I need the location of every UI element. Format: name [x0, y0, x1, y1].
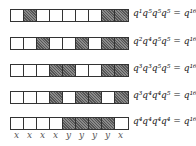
hatched-cell — [63, 118, 76, 129]
empty-cell — [50, 10, 63, 21]
empty-cell — [11, 38, 24, 49]
strip-row-3 — [10, 63, 129, 77]
strip-row-4 — [10, 90, 129, 104]
hatched-cell — [89, 92, 102, 103]
strip-4 — [10, 91, 129, 104]
empty-cell — [89, 65, 102, 76]
hatched-cell — [102, 38, 115, 49]
hatched-cell — [76, 92, 89, 103]
variable-label: y — [88, 130, 101, 140]
empty-cell — [50, 118, 63, 129]
empty-cell — [24, 65, 37, 76]
hatched-cell — [102, 118, 115, 129]
variable-label: x — [10, 130, 23, 140]
hatched-cell — [102, 65, 115, 76]
empty-cell — [24, 118, 37, 129]
hatched-cell — [50, 65, 63, 76]
empty-cell — [24, 92, 37, 103]
hatched-cell — [63, 65, 76, 76]
variable-label: y — [75, 130, 88, 140]
variable-label: y — [101, 130, 114, 140]
variable-label: x — [23, 130, 36, 140]
empty-cell — [63, 38, 76, 49]
empty-cell — [24, 38, 37, 49]
hatched-cell — [37, 38, 50, 49]
empty-cell — [102, 92, 115, 103]
empty-cell — [115, 118, 128, 129]
row-label-3: q³q³q⁵q⁵ = q¹⁶ — [133, 63, 196, 73]
hatched-cell — [76, 38, 89, 49]
strip-row-1 — [10, 8, 129, 22]
hatched-cell — [76, 118, 89, 129]
empty-cell — [11, 10, 24, 21]
empty-cell — [63, 92, 76, 103]
strip-row-2 — [10, 36, 129, 50]
variable-labels: xxxxyyyyx — [10, 130, 127, 140]
hatched-cell — [24, 10, 37, 21]
empty-cell — [50, 38, 63, 49]
hatched-cell — [115, 65, 128, 76]
empty-cell — [89, 10, 102, 21]
strip-row-5 — [10, 116, 129, 130]
hatched-cell — [89, 118, 102, 129]
variable-label: x — [114, 130, 127, 140]
empty-cell — [37, 65, 50, 76]
empty-cell — [11, 118, 24, 129]
empty-cell — [89, 38, 102, 49]
empty-cell — [37, 10, 50, 21]
empty-cell — [37, 118, 50, 129]
empty-cell — [11, 65, 24, 76]
empty-cell — [76, 65, 89, 76]
hatched-cell — [115, 10, 128, 21]
variable-label: y — [62, 130, 75, 140]
row-label-5: q⁴q⁴q⁴q⁴ = q¹⁶ — [133, 116, 196, 126]
strip-2 — [10, 37, 129, 50]
strip-5 — [10, 117, 129, 130]
hatched-cell — [115, 92, 128, 103]
empty-cell — [63, 10, 76, 21]
empty-cell — [76, 10, 89, 21]
hatched-cell — [50, 92, 63, 103]
strip-3 — [10, 64, 129, 77]
hatched-cell — [102, 10, 115, 21]
row-label-1: q¹q⁵q⁵q⁵ = q¹⁶ — [133, 8, 196, 18]
row-label-4: q³q⁴q⁴q⁵ = q¹⁶ — [133, 90, 196, 100]
variable-label: x — [36, 130, 49, 140]
strip-1 — [10, 9, 129, 22]
empty-cell — [37, 92, 50, 103]
variable-label: x — [49, 130, 62, 140]
empty-cell — [11, 92, 24, 103]
row-label-2: q²q⁴q⁵q⁵ = q¹⁶ — [133, 36, 196, 46]
hatched-cell — [115, 38, 128, 49]
